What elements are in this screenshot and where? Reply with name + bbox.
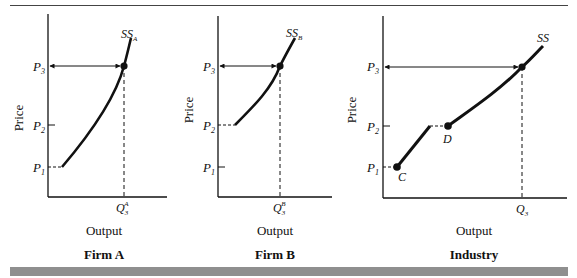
- label-p2: P2: [366, 119, 379, 136]
- label-point-c: C: [398, 170, 407, 184]
- label-p3: P3: [32, 59, 45, 76]
- ylabel-price: Price: [11, 104, 26, 131]
- point-d: [444, 122, 452, 130]
- q3-label: Q3: [516, 202, 529, 218]
- q3a-label: Q3A: [116, 200, 129, 217]
- supply-curve-a: [62, 38, 131, 167]
- curve-label-ssb: SSB: [286, 26, 303, 42]
- label-p2: P2: [32, 118, 45, 135]
- equilibrium-point: [120, 62, 127, 69]
- ylabel-price: Price: [344, 96, 359, 123]
- panel-industry: P3 P2 P1 Price C D SS Q3 Output Industry: [344, 16, 567, 262]
- panel-title-firm-a: Firm A: [84, 247, 125, 262]
- xlabel-output: Output: [456, 223, 493, 238]
- panel-firm-b: P3 P2 P1 Price SSB Q3B Output Firm B: [181, 16, 332, 262]
- label-p3: P3: [202, 59, 215, 76]
- ylabel-price: Price: [181, 96, 196, 123]
- equilibrium-point: [518, 63, 525, 70]
- curve-label-ss: SS: [537, 31, 549, 45]
- label-p1: P1: [32, 160, 45, 177]
- xlabel-output: Output: [86, 223, 123, 238]
- xlabel-output: Output: [257, 223, 294, 238]
- label-p2: P2: [202, 118, 215, 135]
- bottom-bar: [10, 267, 568, 276]
- label-p3: P3: [366, 59, 379, 76]
- supply-curve-b: [235, 38, 295, 125]
- supply-segment-cd: [397, 126, 430, 167]
- equilibrium-point: [276, 62, 283, 69]
- curve-label-ssa: SSA: [121, 27, 138, 43]
- panel-title-industry: Industry: [450, 247, 499, 262]
- panel-firm-a: P3 P2 P1 Price SSA Q3A Output Firm A: [11, 14, 167, 262]
- supply-segment-upper: [448, 46, 543, 126]
- label-p1: P1: [366, 160, 379, 177]
- panel-title-firm-b: Firm B: [255, 247, 295, 262]
- label-p1: P1: [202, 160, 215, 177]
- supply-diagram: P3 P2 P1 Price SSA Q3A Output Firm A P3 …: [0, 0, 577, 278]
- label-point-d: D: [442, 132, 452, 146]
- q3b-label: Q3B: [273, 200, 286, 217]
